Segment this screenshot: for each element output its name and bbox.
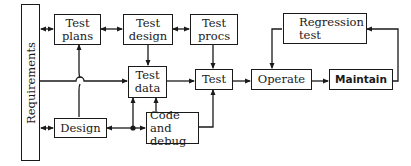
test-design-label-2: design	[129, 30, 168, 43]
test-procs-label-2: procs	[198, 30, 230, 43]
operate-label: Operate	[258, 73, 305, 86]
node-test: Test	[195, 69, 233, 90]
test-data-label-2: data	[135, 82, 161, 95]
node-design: Design	[54, 118, 107, 138]
junction-dot	[130, 125, 135, 130]
node-operate: Operate	[251, 69, 312, 90]
node-regression-test: Regression test	[283, 13, 367, 44]
test-plans-label-2: plans	[62, 30, 93, 43]
node-requirements: Requirements	[21, 4, 40, 161]
requirements-label: Requirements	[24, 42, 38, 124]
maintain-label: Maintain	[335, 73, 387, 86]
node-test-procs: Test procs	[190, 14, 238, 45]
node-code-and-debug: Code and debug	[146, 112, 199, 144]
regression-label-1: Regression	[299, 16, 364, 29]
code-label-1: Code and	[150, 109, 198, 135]
node-maintain: Maintain	[329, 69, 393, 90]
code-label-2: debug	[150, 135, 198, 148]
node-test-design: Test design	[123, 14, 173, 45]
regression-label-2: test	[299, 29, 364, 42]
test-label: Test	[202, 73, 226, 86]
test-design-label-1: Test	[129, 17, 168, 30]
test-plans-label-1: Test	[62, 17, 93, 30]
node-test-data: Test data	[128, 66, 167, 98]
design-label: Design	[60, 122, 100, 135]
test-procs-label-1: Test	[198, 17, 230, 30]
node-test-plans: Test plans	[54, 14, 101, 45]
